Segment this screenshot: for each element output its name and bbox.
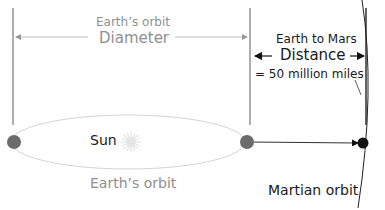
earth-to-mars-label: Earth to Mars xyxy=(276,33,357,45)
earth-left-dot xyxy=(7,135,21,149)
distance-value-label: = 50 million miles xyxy=(255,68,364,80)
diameter-label: Diameter xyxy=(99,31,169,46)
sun-icon xyxy=(121,132,141,152)
earth-orbit-top-label: Earth’s orbit xyxy=(96,16,170,28)
earth-orbit-bottom-label: Earth’s orbit xyxy=(90,176,176,190)
sun-label: Sun xyxy=(90,133,117,147)
mars-dot xyxy=(358,138,369,149)
distance-label: Distance xyxy=(280,48,346,63)
earth-right-dot xyxy=(240,135,254,149)
distance-value-leader xyxy=(355,80,361,95)
earth-to-mars-arrow xyxy=(249,142,358,143)
martian-orbit-label: Martian orbit xyxy=(268,183,358,197)
